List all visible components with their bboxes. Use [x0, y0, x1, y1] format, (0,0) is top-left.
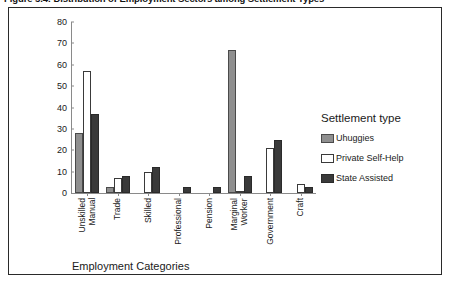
- bar-group: [164, 22, 195, 193]
- legend-item: Uhuggies: [321, 133, 447, 143]
- x-axis-category-label: Government: [255, 198, 286, 260]
- legend-item: Private Self-Help: [321, 153, 447, 163]
- x-axis-category-label-text: Pension: [205, 198, 215, 229]
- legend-title: Settlement type: [321, 112, 447, 124]
- bar-group: [72, 22, 103, 193]
- bar: [228, 50, 236, 193]
- x-axis-category-label: Pension: [194, 198, 225, 260]
- bar: [106, 187, 114, 193]
- x-axis-category-label: Craft: [286, 198, 317, 260]
- x-axis-category-label: Skilled: [133, 198, 164, 260]
- legend-label: Private Self-Help: [336, 153, 404, 163]
- legend-label: Uhuggies: [336, 133, 374, 143]
- bar-groups: [72, 22, 316, 193]
- x-axis-category-label-text: Government: [266, 198, 276, 245]
- legend-swatch: [321, 134, 334, 143]
- legend-item: State Assisted: [321, 173, 447, 183]
- figure-caption-text: Figure 5.4: Distribution of Employment S…: [0, 0, 452, 4]
- x-axis-tick-mark: [87, 193, 88, 196]
- x-axis-tick-mark: [301, 193, 302, 196]
- bar: [305, 187, 313, 193]
- bar: [114, 178, 122, 193]
- y-axis-tick-label: 60: [57, 60, 67, 70]
- chart-figure: Figure 5.4: Distribution of Employment S…: [0, 0, 452, 283]
- x-axis-tick-mark: [270, 193, 271, 196]
- y-axis-tick-label: 50: [57, 81, 67, 91]
- legend-items: UhuggiesPrivate Self-HelpState Assisted: [321, 133, 447, 183]
- bar-group: [194, 22, 225, 193]
- bar: [83, 71, 91, 193]
- bar: [274, 140, 282, 193]
- bar: [122, 176, 130, 193]
- bar-group: [103, 22, 134, 193]
- bar: [244, 176, 252, 193]
- bar-group: [225, 22, 256, 193]
- bar: [91, 114, 99, 193]
- x-axis-category-label: Unskilled Manual: [72, 198, 103, 260]
- x-axis-tick-mark: [179, 193, 180, 196]
- x-axis-tick-mark: [148, 193, 149, 196]
- x-axis-title: Employment Categories: [72, 260, 332, 272]
- x-axis-category-label-text: Craft: [296, 198, 306, 216]
- y-axis-tick-label: 0: [62, 188, 67, 198]
- x-axis-category-label-text: Professional: [174, 198, 184, 245]
- figure-caption: Figure 5.4: Distribution of Employment S…: [0, 0, 452, 4]
- x-axis-tick-mark: [240, 193, 241, 196]
- x-axis-category-label-text: Trade: [113, 198, 123, 220]
- x-axis-tick-mark: [209, 193, 210, 196]
- bar: [144, 172, 152, 193]
- x-axis-category-label-text: Unskilled Manual: [78, 198, 97, 233]
- x-axis-category-label-text: Skilled: [144, 198, 154, 223]
- y-axis-tick-label: 80: [57, 17, 67, 27]
- x-axis-category-label: Trade: [103, 198, 134, 260]
- y-axis-tick-label: 30: [57, 124, 67, 134]
- legend-label: State Assisted: [336, 173, 393, 183]
- bar: [266, 148, 274, 193]
- x-axis-tick-mark: [118, 193, 119, 196]
- legend: Settlement type UhuggiesPrivate Self-Hel…: [321, 112, 447, 193]
- legend-swatch: [321, 174, 334, 183]
- bar: [213, 187, 221, 193]
- y-axis-tick-label: 10: [57, 167, 67, 177]
- x-axis-category-label: Professional: [164, 198, 195, 260]
- x-axis-category-labels: Unskilled ManualTradeSkilledProfessional…: [72, 198, 316, 260]
- bar-group: [255, 22, 286, 193]
- chart-frame: 01020304050607080 Unskilled ManualTradeS…: [8, 7, 442, 275]
- x-axis-category-label: Marginal Worker: [225, 198, 256, 260]
- bar-group: [133, 22, 164, 193]
- bar: [152, 167, 160, 193]
- y-axis-tick-label: 40: [57, 103, 67, 113]
- bar-group: [286, 22, 317, 193]
- y-axis-tick-label: 70: [57, 38, 67, 48]
- plot-area: 01020304050607080: [71, 22, 316, 194]
- bar: [75, 133, 83, 193]
- bar: [183, 187, 191, 193]
- bar: [297, 184, 305, 193]
- x-axis-category-label-text: Marginal Worker: [230, 198, 249, 231]
- x-axis-line: [71, 193, 316, 194]
- y-axis-tick-label: 20: [57, 145, 67, 155]
- legend-swatch: [321, 154, 334, 163]
